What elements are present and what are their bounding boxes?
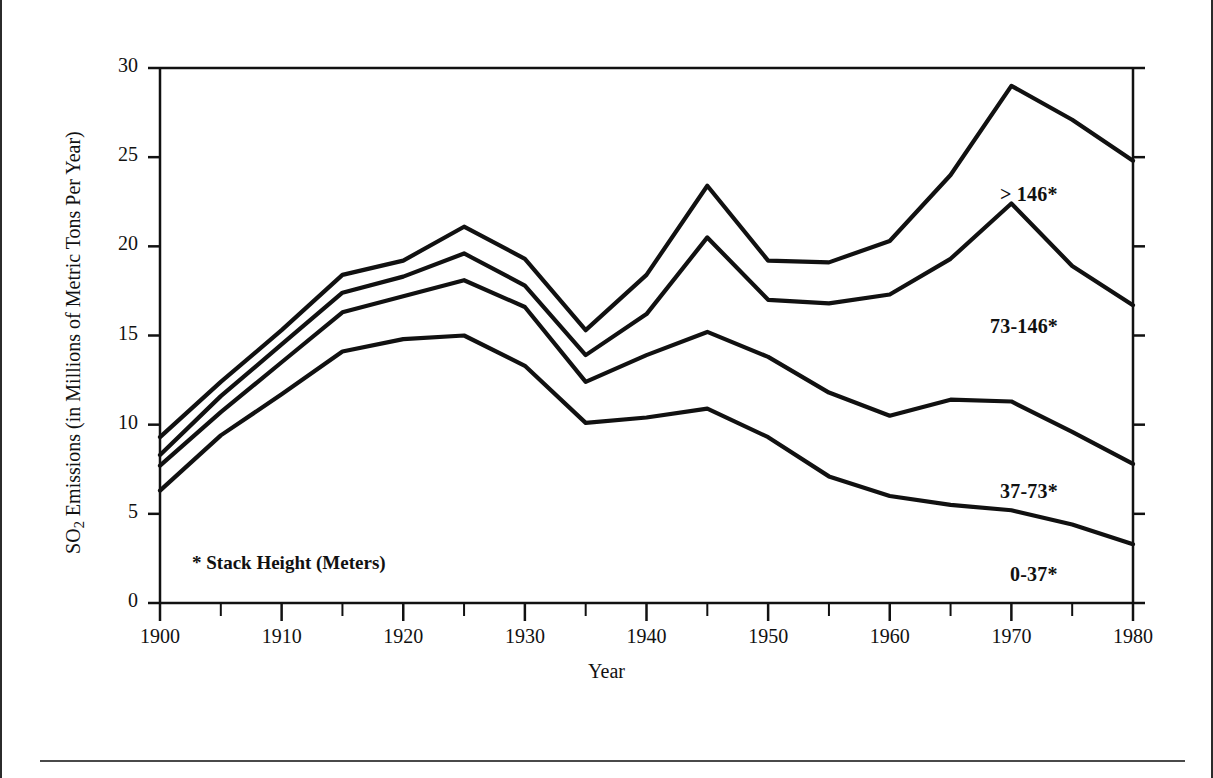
x-axis-title: Year <box>0 660 1213 683</box>
y-axis-title-subscript: 2 <box>71 521 87 528</box>
x-tick-label: 1910 <box>242 625 322 648</box>
stack-height-footnote: * Stack Height (Meters) <box>192 552 386 574</box>
y-axis-title-suffix: Emissions (in Millions of Metric Tons Pe… <box>62 131 84 521</box>
tick-marks-group <box>148 68 1145 621</box>
x-tick-label: 1960 <box>850 625 930 648</box>
so2-emissions-figure: SO2 Emissions (in Millions of Metric Ton… <box>0 0 1213 778</box>
y-tick-label: 30 <box>98 54 138 77</box>
y-tick-label: 15 <box>98 322 138 345</box>
x-tick-label: 1940 <box>607 625 687 648</box>
x-tick-label: 1950 <box>728 625 808 648</box>
x-tick-label: 1900 <box>120 625 200 648</box>
y-tick-label: 0 <box>98 589 138 612</box>
series-label-4: 0-37* <box>1010 563 1058 586</box>
y-tick-label: 5 <box>98 500 138 523</box>
y-axis-title-prefix: SO <box>62 528 84 554</box>
series-line-1 <box>160 86 1133 437</box>
x-tick-label: 1980 <box>1093 625 1173 648</box>
bottom-horizontal-rule <box>40 760 1185 762</box>
x-tick-label: 1970 <box>971 625 1051 648</box>
data-series-group <box>160 86 1133 544</box>
y-tick-label: 20 <box>98 232 138 255</box>
axes-group <box>160 68 1133 603</box>
series-label-2: 73-146* <box>990 315 1058 338</box>
series-label-3: 37-73* <box>1000 480 1058 503</box>
y-tick-label: 25 <box>98 143 138 166</box>
x-tick-label: 1930 <box>485 625 565 648</box>
y-axis-title: SO2 Emissions (in Millions of Metric Ton… <box>62 63 87 623</box>
y-tick-label: 10 <box>98 411 138 434</box>
series-label-1: > 146* <box>1000 183 1058 206</box>
x-tick-label: 1920 <box>363 625 443 648</box>
series-line-4 <box>160 336 1133 545</box>
